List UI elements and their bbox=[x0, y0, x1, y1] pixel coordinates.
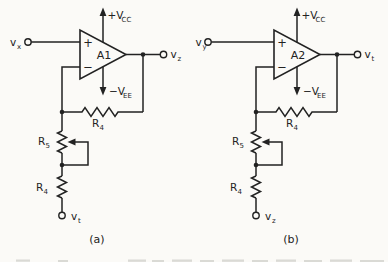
bottom-voltage-label: v bbox=[71, 210, 77, 222]
potentiometer-subscript: 5 bbox=[46, 142, 50, 150]
feedback-resistor-label: R bbox=[286, 117, 293, 129]
circuit-a: v x + − A1 +V CC −V EE v z R 4 R 5 bbox=[10, 8, 182, 247]
input-voltage-label: v bbox=[196, 36, 202, 48]
bottom-voltage-subscript: t bbox=[78, 217, 81, 225]
vee-subscript: EE bbox=[317, 92, 326, 100]
inverting-sign: − bbox=[83, 60, 93, 74]
output-terminal bbox=[160, 51, 166, 57]
potentiometer-label: R bbox=[232, 135, 239, 147]
potentiometer-subscript: 5 bbox=[240, 142, 244, 150]
potentiometer-symbol bbox=[58, 131, 67, 153]
feedback-resistor-symbol bbox=[256, 108, 337, 117]
vee-subscript: EE bbox=[123, 92, 132, 100]
feedback-resistor-subscript: 4 bbox=[294, 124, 299, 132]
bottom-terminal bbox=[253, 212, 259, 218]
output-voltage-label: v bbox=[365, 48, 371, 60]
wiper-arrow-icon bbox=[262, 139, 270, 146]
noninverting-sign: + bbox=[277, 36, 287, 50]
circuit-caption: (b) bbox=[283, 233, 299, 246]
vcc-subscript: CC bbox=[316, 16, 326, 24]
opamp-label: A2 bbox=[291, 49, 306, 62]
feedback-resistor-subscript: 4 bbox=[100, 124, 105, 132]
feedback-resistor-symbol bbox=[62, 108, 143, 117]
vcc-arrow-up-icon bbox=[294, 8, 301, 17]
input-voltage-subscript: x bbox=[17, 43, 21, 51]
lower-resistor-symbol bbox=[58, 176, 67, 198]
vcc-arrow-up-icon bbox=[100, 8, 107, 17]
vcc-subscript: CC bbox=[122, 16, 132, 24]
bottom-voltage-label: v bbox=[265, 210, 271, 222]
lower-resistor-label: R bbox=[230, 181, 237, 193]
feedback-resistor-label: R bbox=[92, 117, 99, 129]
lower-resistor-symbol bbox=[252, 176, 261, 198]
bottom-voltage-subscript: z bbox=[272, 217, 276, 225]
output-terminal bbox=[354, 51, 360, 57]
circuit-caption: (a) bbox=[89, 233, 104, 246]
wiper-arrow-icon bbox=[68, 139, 76, 146]
feedback-wire bbox=[256, 67, 274, 131]
input-terminal bbox=[205, 39, 211, 45]
vee-arrow-down-icon bbox=[294, 87, 301, 96]
lower-resistor-label: R bbox=[36, 181, 43, 193]
output-voltage-subscript: z bbox=[178, 55, 182, 63]
noninverting-sign: + bbox=[83, 36, 93, 50]
output-voltage-subscript: t bbox=[372, 55, 375, 63]
bottom-terminal bbox=[59, 212, 65, 218]
vee-arrow-down-icon bbox=[100, 87, 107, 96]
potentiometer-label: R bbox=[38, 135, 45, 147]
lower-resistor-subscript: 4 bbox=[44, 188, 49, 196]
opamp-circuits-figure: v x + − A1 +V CC −V EE v z R 4 R 5 bbox=[0, 0, 388, 262]
potentiometer-symbol bbox=[252, 131, 261, 153]
input-terminal bbox=[25, 39, 31, 45]
input-voltage-label: v bbox=[10, 36, 16, 48]
circuit-b: v y + − A2 +V CC −V EE v t R 4 R 5 bbox=[196, 8, 375, 247]
schematic-page: v x + − A1 +V CC −V EE v z R 4 R 5 bbox=[0, 0, 388, 262]
opamp-label: A1 bbox=[97, 49, 112, 62]
inverting-sign: − bbox=[277, 60, 287, 74]
output-voltage-label: v bbox=[171, 48, 177, 60]
lower-resistor-subscript: 4 bbox=[238, 188, 243, 196]
feedback-wire bbox=[62, 67, 80, 131]
